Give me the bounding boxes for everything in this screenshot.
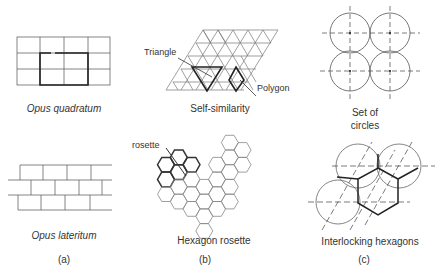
callout-triangle: Triangle: [144, 47, 176, 57]
set-of-circles-diagram: [320, 6, 420, 100]
callout-rosette: rosette: [132, 140, 160, 150]
caption-hexagon-rosette: Hexagon rosette: [177, 235, 250, 246]
panel-label-b: (b): [199, 254, 211, 265]
panel-label-c: (c): [358, 254, 370, 265]
interlocking-hexagons-diagram: [308, 142, 435, 230]
caption-self-similarity: Self-similarity: [190, 103, 249, 114]
caption-opus-quadratum: Opus quadratum: [27, 103, 102, 114]
panel-label-a: (a): [58, 254, 70, 265]
opus-lateritum-diagram: [8, 165, 112, 210]
caption-set-of-circles-line2: circles: [351, 120, 379, 131]
caption-interlocking-hexagons: Interlocking hexagons: [321, 236, 418, 247]
caption-set-of-circles-line1: Set of: [352, 107, 378, 118]
hexagon-rosette-diagram: [158, 135, 252, 238]
opus-quadratum-diagram: [17, 37, 110, 85]
callout-polygon: Polygon: [257, 83, 290, 93]
caption-opus-lateritum: Opus lateritum: [31, 230, 96, 241]
